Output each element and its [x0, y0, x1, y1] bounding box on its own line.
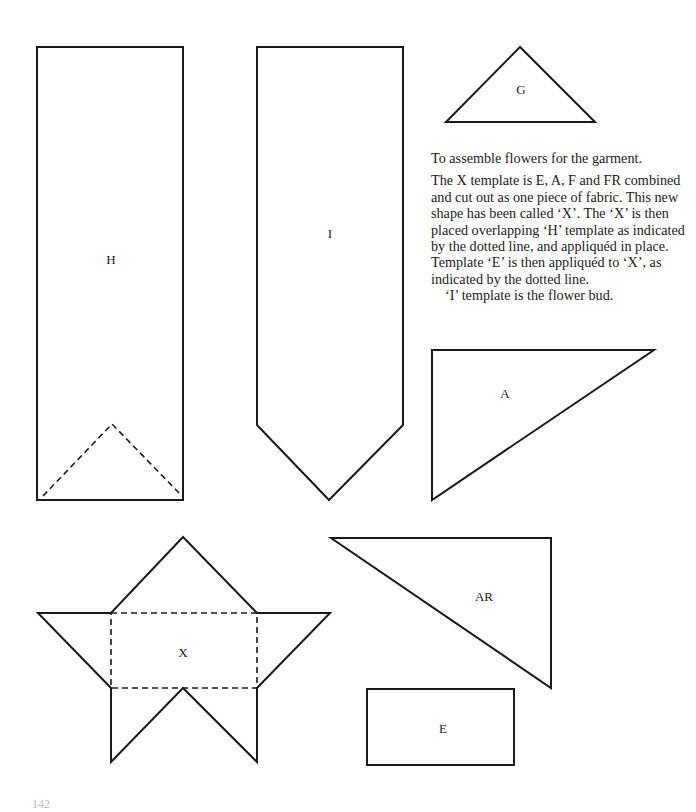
template-ar-label: AR	[475, 589, 493, 604]
instructions-note: ‘I’ template is the flower bud.	[431, 287, 693, 303]
template-g: G	[446, 47, 595, 122]
template-i: I	[257, 47, 403, 500]
template-h-dotted-guide	[43, 424, 182, 496]
template-i-label: I	[328, 226, 332, 241]
template-e-label: E	[439, 721, 447, 736]
template-a-label: A	[500, 386, 510, 401]
template-ar: AR	[331, 538, 551, 688]
assembly-instructions: To assemble flowers for the garment. The…	[431, 150, 693, 304]
instructions-paragraph: The X template is E, A, F and FR combine…	[431, 172, 693, 287]
template-e: E	[367, 689, 514, 765]
template-g-label: G	[516, 82, 525, 97]
template-x: X	[38, 537, 330, 762]
instructions-heading: To assemble flowers for the garment.	[431, 150, 693, 166]
template-x-label: X	[178, 645, 188, 660]
template-a: A	[432, 350, 654, 500]
template-h: H	[37, 47, 183, 500]
template-h-label: H	[106, 252, 115, 267]
page-number: 142	[32, 797, 50, 812]
